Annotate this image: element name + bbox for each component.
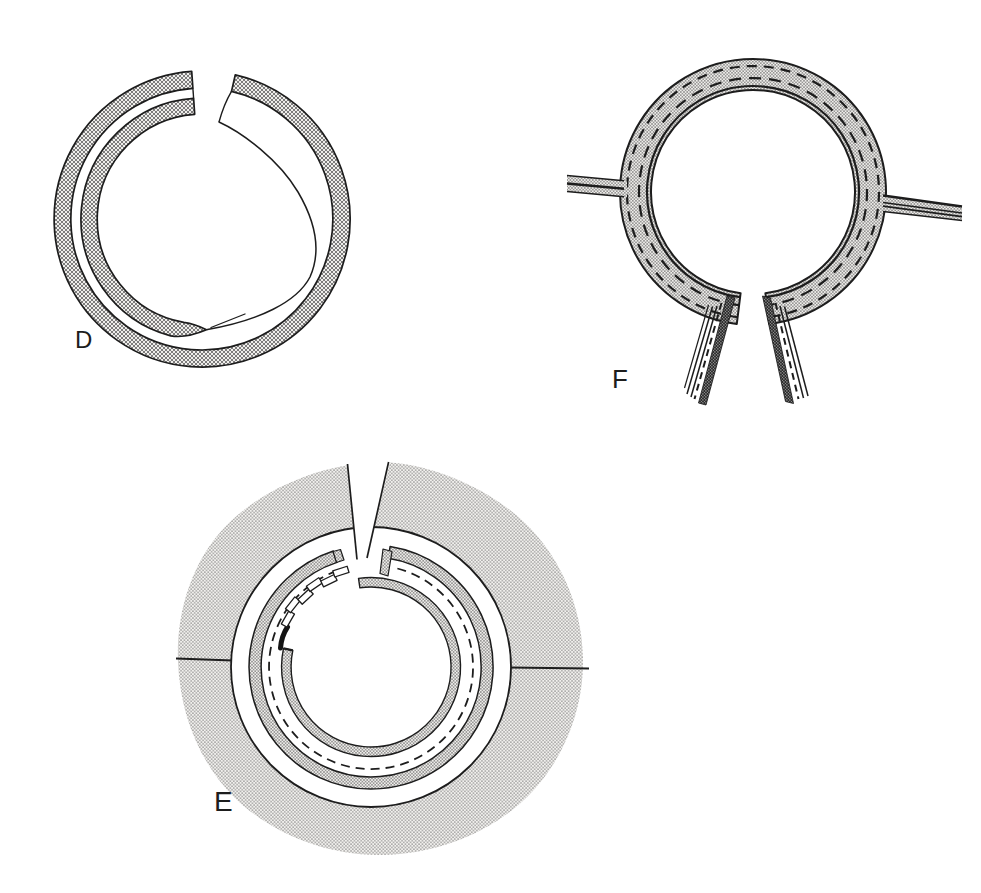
f-left-arm bbox=[567, 176, 627, 198]
panel-e-cyst-section bbox=[176, 462, 589, 855]
d-terminal-cut-line bbox=[219, 91, 232, 122]
e-right-section-line bbox=[509, 668, 589, 669]
f-right-arm bbox=[881, 195, 962, 221]
panel-label-e: E bbox=[214, 786, 233, 818]
d-membrane-line bbox=[208, 122, 317, 330]
panel-f-ring-section bbox=[567, 59, 962, 405]
panel-d-spiral-band bbox=[54, 71, 350, 367]
d-outer-band bbox=[54, 71, 350, 367]
e-clear-zone bbox=[231, 527, 511, 807]
panel-label-d: D bbox=[75, 326, 92, 354]
f-ring-band bbox=[620, 59, 886, 324]
scanned-figure-page: D E F bbox=[0, 0, 981, 893]
d-gap-fold-line bbox=[193, 88, 194, 98]
diagram-canvas bbox=[0, 0, 981, 893]
panel-label-f: F bbox=[612, 364, 628, 395]
